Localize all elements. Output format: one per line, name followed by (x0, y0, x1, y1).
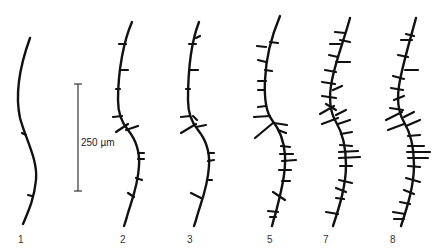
dendrite-5 (254, 16, 296, 226)
dendrite-1 (18, 38, 36, 224)
panel-label-1: 1 (18, 234, 24, 245)
scale-bar-label: 250 µm (81, 137, 115, 148)
dendrite-figure (0, 0, 446, 252)
panel-label-5: 5 (267, 234, 273, 245)
dendrite-2 (113, 22, 144, 226)
panel-label-2: 2 (120, 234, 126, 245)
panel-label-7: 7 (323, 234, 329, 245)
panel-label-8: 8 (390, 234, 396, 245)
panel-label-3: 3 (187, 234, 193, 245)
dendrite-7 (320, 18, 360, 226)
dendrite-3 (181, 22, 214, 226)
dendrite-8 (386, 18, 430, 226)
